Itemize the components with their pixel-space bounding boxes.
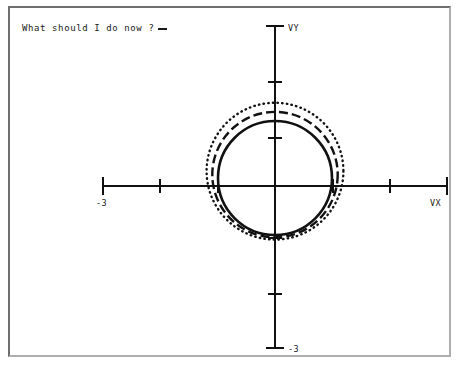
y-axis-min-tick-label: -3 (288, 344, 299, 354)
y-axis-label: VY (288, 23, 299, 33)
x-axis-min-tick-label: -3 (96, 198, 107, 208)
phase-plot: VY VX -3 -3 (0, 0, 460, 371)
terminal-screen: What should I do now ? (0, 0, 460, 371)
axes-group (103, 26, 447, 348)
x-axis-label: VX (430, 198, 442, 208)
